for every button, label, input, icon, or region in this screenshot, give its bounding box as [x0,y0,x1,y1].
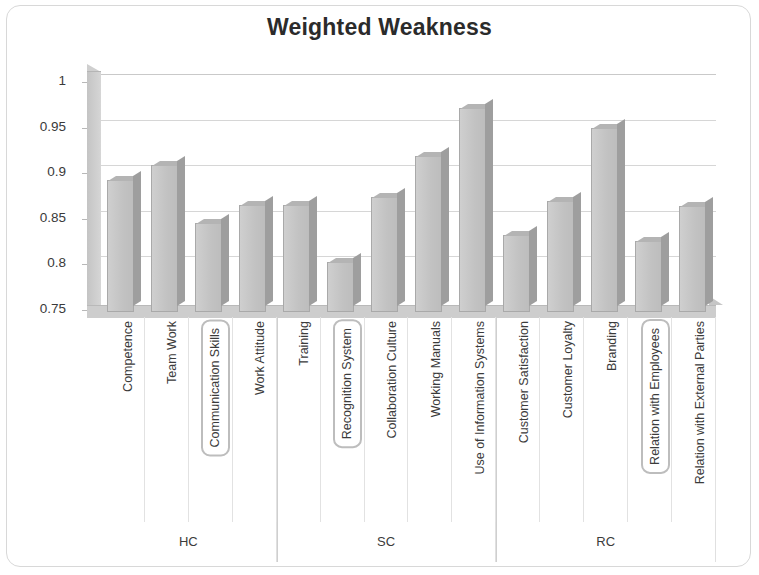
bar-4 [283,205,310,312]
y-axis-tick-5: 0.75 [18,301,66,316]
y-axis-tick-2: 0.9 [18,164,66,179]
bar-side-face [221,214,229,306]
bar-5 [327,262,354,312]
bar-6 [371,197,398,312]
y-axis-tickmark-5 [82,310,87,311]
bar-13 [679,206,706,312]
category-column-6: Collaboration Culture [365,317,409,522]
category-label-5: Recognition System [333,319,362,448]
bar-side-face [265,196,273,306]
gridline-0 [101,74,716,75]
bar-9 [503,235,530,312]
category-column-10: Customer Loyalty [540,317,584,522]
category-label-11: Branding [606,321,619,371]
category-column-13: Relation with External Parties [672,317,716,522]
group-label-hc: HC [101,522,277,562]
group-divider-1 [277,317,278,562]
bar-side-face [441,147,449,306]
category-label-0: Competence [122,321,135,392]
bar-side-face [529,226,537,306]
bar-7 [415,156,442,312]
y-axis-tick-0: 1 [18,73,66,88]
axis-wall [87,71,101,312]
bar-side-face [353,253,361,306]
category-label-13: Relation with External Parties [694,321,707,484]
y-axis-tickmark-4 [82,264,87,265]
bar-side-face [661,232,669,306]
bar-side-face [133,171,141,305]
y-axis-tick-1: 0.95 [18,119,66,134]
group-divider-2 [496,317,497,562]
bar-8 [459,108,486,312]
category-column-3: Work Attitude [233,317,277,522]
bar-3 [239,205,266,312]
y-axis-tickmark-1 [82,128,87,129]
category-label-12: Relation with Employees [641,319,670,474]
bar-11 [591,128,618,312]
y-axis-tick-4: 0.8 [18,255,66,270]
bar-0 [107,180,134,312]
bar-1 [151,165,178,312]
bar-side-face [177,156,185,306]
category-label-9: Customer Satisfaction [518,321,531,443]
group-label-sc: SC [277,522,497,562]
bar-2 [195,223,222,312]
bar-12 [635,241,662,312]
bar-side-face [309,196,317,306]
category-column-0: Competence [101,317,145,522]
group-label-area: HCSCRC [101,522,730,562]
category-label-1: Team Work [166,321,179,384]
category-column-9: Customer Satisfaction [496,317,540,522]
category-column-12: Relation with Employees [628,317,672,522]
category-column-1: Team Work [145,317,189,522]
bar-side-face [705,197,713,306]
category-column-4: Training [277,317,321,522]
category-column-2: Communication Skills [189,317,233,522]
category-label-3: Work Attitude [254,321,267,395]
bar-side-face [485,99,493,306]
category-column-8: Use of Information Systems [452,317,496,522]
category-column-11: Branding [584,317,628,522]
y-axis-tickmark-0 [82,82,87,83]
category-label-6: Collaboration Culture [386,321,399,438]
bar-side-face [573,192,581,306]
category-label-4: Training [298,321,311,366]
bar-side-face [617,119,625,306]
category-label-7: Working Manuals [430,321,443,417]
y-axis-tickmark-2 [82,173,87,174]
group-label-rc: RC [496,522,716,562]
category-label-2: Communication Skills [201,319,230,456]
category-label-area: CompetenceTeam WorkCommunication SkillsW… [101,317,730,522]
bar-10 [547,201,574,312]
y-axis-tick-3: 0.85 [18,210,66,225]
y-axis-tickmark-3 [82,219,87,220]
category-column-5: Recognition System [321,317,365,522]
category-label-8: Use of Information Systems [474,321,487,475]
category-label-10: Customer Loyalty [562,321,575,418]
chart-plot-wrapper: 10.950.90.850.80.75 CompetenceTeam WorkC… [0,0,759,575]
category-column-7: Working Manuals [409,317,453,522]
bar-side-face [397,188,405,306]
